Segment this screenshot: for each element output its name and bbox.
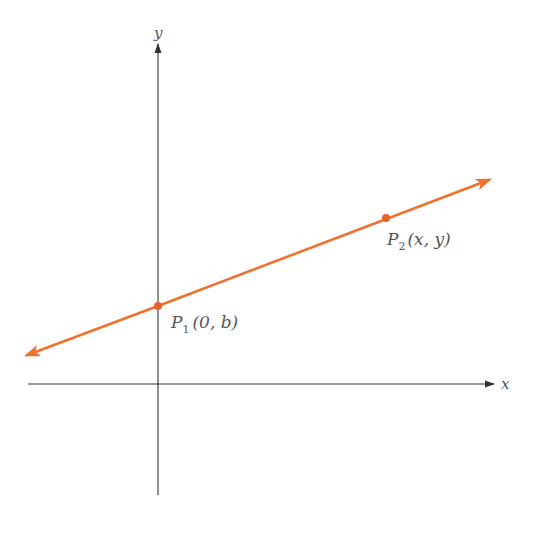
coordinate-diagram: y x P1(0, b) P2(x, y) xyxy=(0,0,535,543)
line-left-extension xyxy=(26,306,158,356)
point-p2 xyxy=(382,214,390,222)
p1-label: P1(0, b) xyxy=(170,312,238,336)
point-p1 xyxy=(154,302,162,310)
y-axis-label: y xyxy=(153,24,163,42)
x-axis-label: x xyxy=(501,375,510,393)
p2-label: P2(x, y) xyxy=(386,229,451,253)
